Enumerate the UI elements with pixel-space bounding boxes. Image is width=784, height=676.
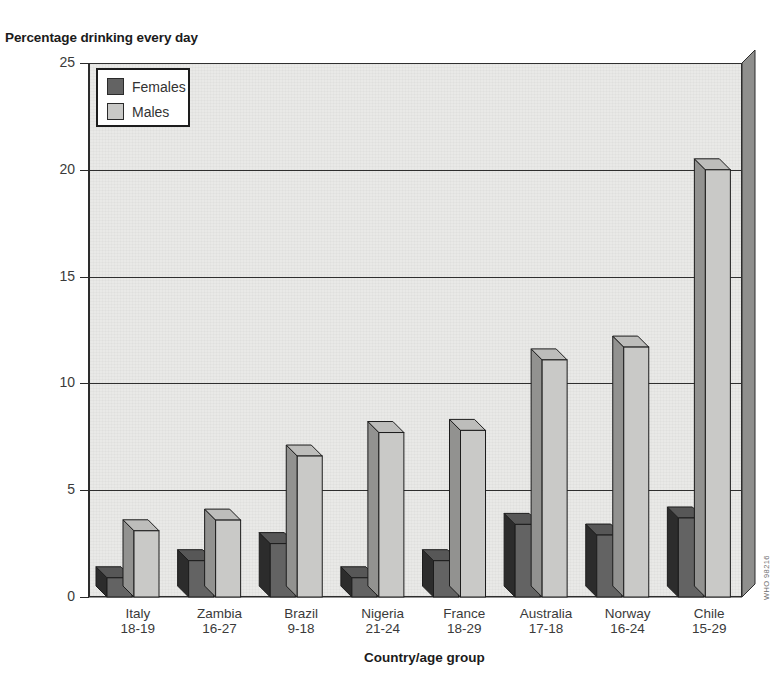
y-axis-tick-label: 10 [35, 375, 75, 389]
x-axis-title: Country/age group [364, 650, 485, 665]
gridline [89, 63, 742, 64]
y-axis-tick-label: 0 [35, 589, 75, 603]
y-axis-tick-mark [80, 597, 89, 598]
legend-entry-males: Males [107, 103, 169, 120]
gridline [89, 170, 742, 171]
y-axis-tick-label: 15 [35, 269, 75, 283]
y-axis-line [88, 63, 90, 597]
legend-entry-females: Females [107, 78, 186, 95]
legend-swatch-males [107, 103, 124, 120]
x-axis-tick-label: Chile15-29 [661, 606, 757, 636]
x-axis-country: Chile [661, 606, 757, 621]
y-axis-tick-label: 20 [35, 162, 75, 176]
chart-title: Percentage drinking every day [5, 30, 198, 45]
chart-canvas: Percentage drinking every day 0510152025 [0, 0, 784, 676]
watermark-label: WHO 98216 [762, 555, 771, 600]
gridline [89, 490, 742, 491]
gridline [89, 383, 742, 384]
x-axis-age-range: 15-29 [661, 621, 757, 636]
y-axis-tick-label: 25 [35, 55, 75, 69]
gridline [89, 277, 742, 278]
legend-label: Females [132, 80, 186, 94]
chart-legend: Females Males [96, 68, 190, 127]
plot-back-wall [89, 63, 742, 597]
y-axis-tick-label: 5 [35, 482, 75, 496]
legend-label: Males [132, 105, 169, 119]
legend-swatch-females [107, 78, 124, 95]
